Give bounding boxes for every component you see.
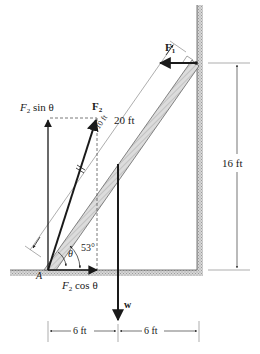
angle-label: 53° [81,243,95,253]
dim-right-label: 6 ft [144,326,158,336]
weight-label: w [124,300,131,310]
f2-cos-label: F2 cos θ [62,280,98,293]
f1-label: F1 [165,42,175,55]
ladder [44,56,199,270]
ladder-length-label: 20 ft [114,115,134,126]
ladder-length-dimension [25,41,186,257]
height-label: 16 ft [222,158,242,169]
f2-sin-label: F2 sin θ [20,102,54,115]
horizontal-dimension [48,321,199,342]
wall [197,5,203,276]
dim-left-label: 6 ft [73,326,87,336]
f2-label: F2 [92,101,102,114]
point-a-label: A [36,271,42,281]
theta-label: θ [68,249,73,259]
